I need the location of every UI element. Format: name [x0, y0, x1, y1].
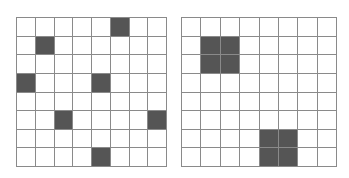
grid-cell: [298, 74, 317, 93]
grid-cell: [130, 55, 149, 74]
grid-cell-filled: [36, 37, 55, 56]
grid-cell: [240, 18, 259, 37]
grid-cell: [221, 74, 240, 93]
grid-cell: [182, 130, 201, 149]
grid-cell: [92, 130, 111, 149]
grid-cell: [318, 148, 337, 167]
grid-cell: [298, 37, 317, 56]
grid-cell: [130, 111, 149, 130]
grid-cell: [318, 37, 337, 56]
grid-cell: [201, 111, 220, 130]
grid-cell: [240, 130, 259, 149]
grid-cell-filled: [260, 148, 279, 167]
grid-cell: [111, 130, 130, 149]
grid-cell: [36, 55, 55, 74]
grid-cell: [55, 18, 74, 37]
grid-cell: [279, 18, 298, 37]
grid-cell: [318, 18, 337, 37]
grid-cell: [130, 130, 149, 149]
grid-cell: [73, 93, 92, 112]
grid-cell: [92, 93, 111, 112]
grid-cell: [182, 18, 201, 37]
grid-cell: [298, 93, 317, 112]
grid-cell: [221, 148, 240, 167]
grid-cell: [260, 74, 279, 93]
grid-cell: [260, 111, 279, 130]
grid-cell: [36, 111, 55, 130]
grid-cell: [240, 148, 259, 167]
grid-cell-filled: [221, 55, 240, 74]
grid-cell: [260, 93, 279, 112]
grid-cell: [182, 37, 201, 56]
grid-cell: [298, 55, 317, 74]
grid-cell: [260, 37, 279, 56]
grid-cell: [55, 55, 74, 74]
grid-cell: [36, 18, 55, 37]
grid-cell: [148, 130, 167, 149]
grid-cell: [36, 130, 55, 149]
grid-cell: [17, 37, 36, 56]
grid-cell: [182, 55, 201, 74]
grid-cell: [73, 130, 92, 149]
grid-cell: [36, 148, 55, 167]
grid-cell: [73, 148, 92, 167]
grid-cell: [17, 93, 36, 112]
left-grid: [16, 17, 167, 167]
grid-cell: [36, 74, 55, 93]
grid-cell: [111, 111, 130, 130]
grid-cell: [17, 111, 36, 130]
grid-cell: [55, 37, 74, 56]
grid-cell: [318, 93, 337, 112]
grid-cell-filled: [201, 55, 220, 74]
grid-cell-filled: [201, 37, 220, 56]
grid-cell: [73, 74, 92, 93]
grid-cell-filled: [279, 130, 298, 149]
grid-cell: [279, 111, 298, 130]
grid-cell: [55, 130, 74, 149]
grid-cell: [318, 74, 337, 93]
grid-cell: [201, 18, 220, 37]
grid-cell: [279, 93, 298, 112]
grid-cell: [148, 55, 167, 74]
grid-cell: [298, 148, 317, 167]
grid-cell: [111, 148, 130, 167]
grid-cell-filled: [92, 74, 111, 93]
grid-cell: [111, 55, 130, 74]
grid-cell: [55, 74, 74, 93]
grid-cell: [221, 111, 240, 130]
grid-cell: [17, 148, 36, 167]
grid-cell: [240, 74, 259, 93]
grid-cell-filled: [92, 148, 111, 167]
grid-cell: [73, 18, 92, 37]
grid-cell: [318, 111, 337, 130]
grid-cell: [260, 18, 279, 37]
grid-cell: [221, 130, 240, 149]
grid-cell: [92, 18, 111, 37]
grid-cell: [279, 37, 298, 56]
grid-cell: [92, 37, 111, 56]
grid-cell: [201, 148, 220, 167]
grid-cell: [221, 18, 240, 37]
grid-cell: [148, 148, 167, 167]
grid-cell: [130, 37, 149, 56]
grid-cell-filled: [55, 111, 74, 130]
grid-cell: [240, 37, 259, 56]
grid-cell: [201, 93, 220, 112]
grid-cell: [55, 148, 74, 167]
grid-cell: [17, 130, 36, 149]
grid-cell: [148, 93, 167, 112]
grid-cell: [92, 111, 111, 130]
grid-cell-filled: [221, 37, 240, 56]
grid-cell: [130, 74, 149, 93]
grid-cell: [240, 55, 259, 74]
grid-cell-filled: [17, 74, 36, 93]
grid-cell: [55, 93, 74, 112]
grid-cell: [130, 18, 149, 37]
grid-cell: [130, 93, 149, 112]
grid-cell: [182, 93, 201, 112]
grid-cell: [73, 111, 92, 130]
grid-cell: [240, 111, 259, 130]
grid-cell: [298, 18, 317, 37]
grid-cell: [279, 55, 298, 74]
grid-cell: [130, 148, 149, 167]
